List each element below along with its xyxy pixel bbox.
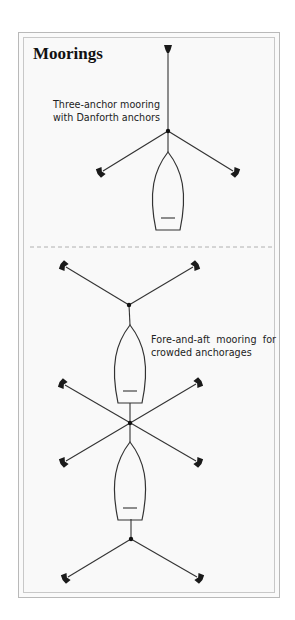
boat-icon xyxy=(114,442,145,520)
boat-icon xyxy=(152,152,183,230)
mooring-hub xyxy=(166,129,170,133)
three-anchor-mooring xyxy=(95,45,241,230)
mooring-hub xyxy=(128,421,132,425)
anchor-icon xyxy=(60,572,71,584)
anchor-icon xyxy=(190,260,201,272)
anchor-icon xyxy=(193,377,204,389)
anchor-icon xyxy=(193,456,204,468)
mooring-hub xyxy=(127,303,131,307)
anchor-icon xyxy=(194,572,205,584)
anchor-icon xyxy=(95,166,106,178)
anchor-icon xyxy=(164,45,172,53)
mooring-hub xyxy=(129,537,133,541)
boat-icon xyxy=(114,325,145,403)
anchor-icon xyxy=(58,260,69,272)
anchor-icon xyxy=(58,456,69,468)
anchor-icon xyxy=(57,378,68,390)
fore-and-aft-mooring xyxy=(57,260,205,585)
rodes xyxy=(103,52,233,171)
moorings-diagram xyxy=(0,0,295,620)
anchor-icon xyxy=(230,166,241,178)
